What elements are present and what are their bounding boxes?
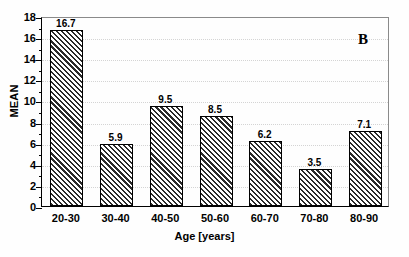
y-tick-mark bbox=[36, 208, 42, 209]
bar bbox=[200, 116, 233, 206]
bar bbox=[150, 106, 183, 206]
bar bbox=[349, 131, 382, 206]
chart-figure: MEAN 024681012141618 B Age [years] 16.72… bbox=[0, 0, 409, 257]
y-minor-tick-mark bbox=[39, 50, 43, 51]
y-tick-label: 2 bbox=[10, 181, 36, 191]
y-minor-tick-mark bbox=[39, 113, 43, 114]
y-tick-label: 18 bbox=[10, 12, 36, 22]
y-tick-label: 10 bbox=[10, 96, 36, 106]
y-minor-tick-mark bbox=[39, 92, 43, 93]
bar-value-label: 7.1 bbox=[344, 119, 384, 130]
y-minor-tick-mark bbox=[39, 155, 43, 156]
gridline bbox=[42, 60, 388, 61]
bar bbox=[299, 169, 332, 206]
bar-value-label: 5.9 bbox=[96, 132, 136, 143]
y-tick-label: 6 bbox=[10, 139, 36, 149]
y-tick-label: 8 bbox=[10, 118, 36, 128]
gridline bbox=[42, 81, 388, 82]
panel-label: B bbox=[358, 31, 368, 48]
bar-value-label: 9.5 bbox=[145, 94, 185, 105]
y-tick-mark bbox=[36, 124, 42, 125]
y-tick-label: 14 bbox=[10, 54, 36, 64]
y-tick-label: 0 bbox=[10, 202, 36, 212]
bar-value-label: 16.7 bbox=[46, 18, 86, 29]
y-tick-mark bbox=[36, 81, 42, 82]
y-tick-mark bbox=[36, 187, 42, 188]
bar bbox=[50, 30, 83, 206]
bar-value-label: 8.5 bbox=[195, 104, 235, 115]
y-tick-mark bbox=[36, 60, 42, 61]
bar-value-label: 6.2 bbox=[245, 129, 285, 140]
y-tick-label: 16 bbox=[10, 33, 36, 43]
y-axis-tick-labels: 024681012141618 bbox=[10, 0, 36, 257]
bar bbox=[249, 141, 282, 206]
y-tick-mark bbox=[36, 166, 42, 167]
y-minor-tick-mark bbox=[39, 71, 43, 72]
y-minor-tick-mark bbox=[39, 29, 43, 30]
gridline bbox=[42, 39, 388, 40]
y-minor-tick-mark bbox=[39, 134, 43, 135]
y-tick-mark bbox=[36, 18, 42, 19]
bar bbox=[100, 144, 133, 206]
y-tick-mark bbox=[36, 145, 42, 146]
y-tick-label: 12 bbox=[10, 75, 36, 85]
x-tick-label: 80-90 bbox=[334, 212, 394, 224]
y-minor-tick-mark bbox=[39, 197, 43, 198]
y-minor-tick-mark bbox=[39, 176, 43, 177]
bar-value-label: 3.5 bbox=[294, 157, 334, 168]
y-tick-mark bbox=[36, 39, 42, 40]
y-tick-mark bbox=[36, 102, 42, 103]
y-tick-label: 4 bbox=[10, 160, 36, 170]
x-axis-title: Age [years] bbox=[0, 230, 409, 242]
